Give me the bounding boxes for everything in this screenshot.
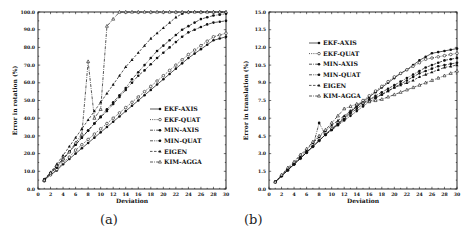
y-tick-label: 40.0 — [24, 116, 35, 121]
x-tick-label: 2 — [280, 192, 283, 197]
marker-open-triangle-icon — [443, 74, 446, 77]
marker-open-triangle-icon — [418, 83, 421, 86]
marker-filled-circle-icon — [355, 110, 358, 113]
marker-open-triangle-icon — [80, 132, 83, 135]
marker-filled-circle-icon — [162, 51, 165, 54]
marker-open-triangle-icon — [162, 10, 165, 13]
x-tick-label: 10 — [97, 192, 103, 197]
x-tick-label: 24 — [416, 192, 423, 197]
marker-open-triangle-icon — [187, 10, 190, 13]
marker-filled-circle-icon — [330, 129, 333, 132]
series-group — [43, 10, 228, 182]
marker-filled-circle-icon — [212, 14, 215, 17]
legend-item: EIGEN — [150, 148, 188, 155]
x-tick-label: 20 — [160, 192, 166, 197]
marker-open-circle-icon — [437, 56, 440, 59]
marker-filled-triangle-icon — [168, 21, 171, 24]
x-tick-label: 22 — [404, 192, 410, 197]
marker-open-circle-icon — [124, 106, 127, 109]
marker-filled-circle-icon — [159, 108, 162, 111]
marker-open-circle-icon — [456, 52, 459, 55]
x-tick-label: 12 — [110, 192, 116, 197]
legend-label: EIGEN — [323, 82, 347, 89]
x-tick-label: 16 — [366, 192, 372, 197]
marker-open-circle-icon — [412, 65, 415, 68]
marker-open-triangle-icon — [374, 99, 377, 102]
marker-open-circle-icon — [374, 90, 377, 93]
legend-label: EKF-QUAT — [323, 50, 360, 58]
marker-open-circle-icon — [93, 133, 96, 136]
marker-open-triangle-icon — [456, 69, 459, 72]
marker-filled-circle-icon — [106, 108, 109, 111]
marker-open-triangle-icon — [318, 94, 321, 97]
marker-filled-circle-icon — [87, 129, 90, 132]
marker-filled-circle-icon — [150, 57, 153, 60]
marker-open-triangle-icon — [174, 10, 177, 13]
marker-filled-circle-icon — [187, 31, 190, 34]
marker-filled-circle-icon — [456, 57, 459, 60]
marker-filled-circle-icon — [437, 65, 440, 68]
marker-filled-circle-icon — [305, 151, 308, 154]
marker-open-triangle-icon — [124, 10, 127, 13]
marker-filled-circle-icon — [437, 61, 440, 64]
marker-open-triangle-icon — [143, 10, 146, 13]
marker-filled-circle-icon — [312, 145, 315, 148]
legend-label: MIN-QUAT — [164, 137, 202, 145]
marker-open-circle-icon — [399, 72, 402, 75]
y-tick-label: 100.0 — [21, 10, 35, 15]
marker-open-circle-icon — [393, 76, 396, 79]
y-tick-label: 0.0 — [27, 187, 35, 192]
marker-open-circle-icon — [225, 32, 228, 35]
marker-open-triangle-icon — [393, 93, 396, 96]
marker-filled-circle-icon — [106, 126, 109, 129]
marker-filled-triangle-icon — [430, 70, 433, 73]
marker-open-circle-icon — [131, 101, 134, 104]
marker-filled-circle-icon — [218, 37, 221, 40]
series-kim-agga — [43, 10, 228, 181]
legend-label: KIM-AGGA — [164, 158, 202, 165]
marker-filled-circle-icon — [431, 52, 434, 55]
marker-open-triangle-icon — [336, 114, 339, 117]
legend-item: EKF-AXIS — [309, 39, 357, 46]
legend-item: MIN-AXIS — [150, 126, 199, 133]
marker-filled-circle-icon — [193, 21, 196, 24]
marker-open-circle-icon — [156, 80, 159, 83]
marker-filled-triangle-icon — [162, 26, 165, 29]
marker-filled-circle-icon — [181, 28, 184, 31]
legend-item: EIGEN — [309, 82, 347, 89]
marker-filled-circle-icon — [337, 124, 340, 127]
marker-open-circle-icon — [218, 34, 221, 37]
marker-filled-circle-icon — [137, 71, 140, 74]
marker-open-triangle-icon — [206, 10, 209, 13]
marker-open-circle-icon — [449, 53, 452, 56]
marker-open-circle-icon — [406, 69, 409, 72]
marker-filled-circle-icon — [324, 133, 327, 136]
legend-label: KIM-AGGA — [323, 92, 361, 99]
y-tick-label: 80.0 — [24, 45, 35, 50]
marker-filled-triangle-icon — [105, 92, 108, 95]
x-tick-label: 8 — [318, 192, 321, 197]
series-ekf-axis — [274, 47, 458, 183]
marker-filled-circle-icon — [99, 131, 102, 134]
marker-filled-circle-icon — [137, 74, 140, 77]
x-tick-label: 22 — [173, 192, 179, 197]
marker-filled-circle-icon — [343, 119, 346, 122]
marker-filled-circle-icon — [175, 41, 178, 44]
x-tick-label: 20 — [391, 192, 397, 197]
x-tick-label: 4 — [292, 192, 296, 197]
legend-label: MIN-QUAT — [323, 71, 361, 79]
legend-item: EKF-QUAT — [309, 50, 360, 58]
series-group — [274, 47, 459, 183]
y-tick-label: 20.0 — [24, 151, 35, 156]
marker-filled-circle-icon — [118, 115, 121, 118]
caption-a: (a) — [100, 212, 118, 227]
marker-filled-circle-icon — [424, 66, 427, 69]
series-min-quat — [43, 12, 227, 181]
x-tick-label: 0 — [36, 192, 39, 197]
marker-filled-circle-icon — [156, 50, 159, 53]
marker-filled-circle-icon — [206, 23, 209, 26]
marker-open-circle-icon — [318, 52, 321, 55]
marker-open-triangle-icon — [62, 157, 65, 160]
marker-filled-circle-icon — [156, 83, 159, 86]
y-tick-label: 15.0 — [255, 10, 266, 15]
